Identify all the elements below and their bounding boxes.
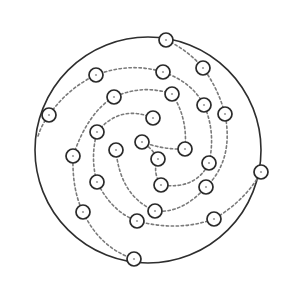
node-center-dot: [184, 148, 186, 150]
node-center-dot: [96, 131, 98, 133]
node: [146, 111, 160, 125]
node-center-dot: [95, 74, 97, 76]
node-center-dot: [160, 184, 162, 186]
node: [127, 252, 141, 266]
node: [89, 68, 103, 82]
node: [178, 142, 192, 156]
node-center-dot: [171, 93, 173, 95]
node-center-dot: [202, 67, 204, 69]
node: [107, 90, 121, 104]
node: [90, 175, 104, 189]
node: [202, 156, 216, 170]
node-center-dot: [165, 39, 167, 41]
node-center-dot: [96, 181, 98, 183]
node: [154, 178, 168, 192]
node-center-dot: [141, 141, 143, 143]
node-group: [42, 33, 268, 266]
node-center-dot: [133, 258, 135, 260]
dashed-path: [94, 113, 262, 226]
node: [156, 65, 170, 79]
node: [76, 205, 90, 219]
node-center-dot: [152, 117, 154, 119]
node: [254, 165, 268, 179]
node: [90, 125, 104, 139]
node-center-dot: [208, 162, 210, 164]
node-center-dot: [205, 186, 207, 188]
node: [66, 149, 80, 163]
node-center-dot: [213, 218, 215, 220]
node-center-dot: [162, 71, 164, 73]
node-center-dot: [113, 96, 115, 98]
node-center-dot: [115, 149, 117, 151]
node: [196, 61, 210, 75]
node: [135, 135, 149, 149]
node: [109, 143, 123, 157]
node-center-dot: [154, 210, 156, 212]
node: [197, 98, 211, 112]
node-center-dot: [224, 113, 226, 115]
node-center-dot: [157, 158, 159, 160]
node: [207, 212, 221, 226]
node: [42, 108, 56, 122]
node-center-dot: [260, 171, 262, 173]
node: [159, 33, 173, 47]
node: [151, 152, 165, 166]
dashed-path: [38, 68, 212, 186]
node-center-dot: [203, 104, 205, 106]
node-center-dot: [82, 211, 84, 213]
node: [130, 214, 144, 228]
node-center-dot: [48, 114, 50, 116]
spiral-diagram: [0, 0, 295, 299]
diagram-canvas: [0, 0, 295, 299]
node: [148, 204, 162, 218]
node-center-dot: [136, 220, 138, 222]
node: [218, 107, 232, 121]
node: [199, 180, 213, 194]
node: [165, 87, 179, 101]
node-center-dot: [72, 155, 74, 157]
